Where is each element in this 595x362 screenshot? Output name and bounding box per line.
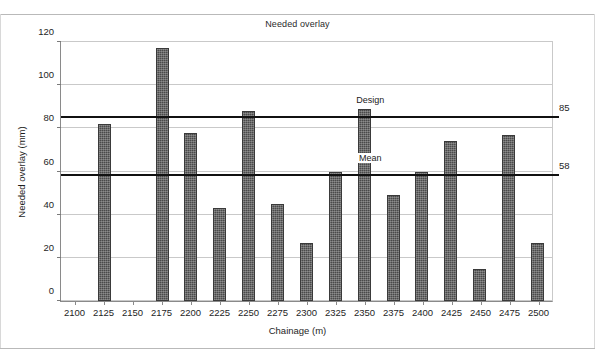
bar[interactable] <box>502 135 515 301</box>
x-axis-tick-label: 2100 <box>64 307 85 318</box>
x-axis-tick <box>452 302 453 305</box>
x-axis-tick <box>394 302 395 305</box>
bar[interactable] <box>271 204 284 301</box>
bar[interactable] <box>473 269 486 301</box>
y-axis-tick-label: 120 <box>38 26 54 37</box>
page-border-bottom <box>0 348 595 349</box>
reference-line-design <box>61 116 559 118</box>
reference-value-design: 85 <box>559 101 570 112</box>
bar-slot <box>321 42 350 301</box>
x-axis-slot: 2350 <box>350 302 379 320</box>
x-axis-tick-label: 2350 <box>354 307 375 318</box>
y-axis-tick-label: 40 <box>43 198 54 209</box>
bar[interactable] <box>387 195 400 301</box>
x-axis-tick-label: 2175 <box>151 307 172 318</box>
x-axis-slot: 2375 <box>379 302 408 320</box>
x-axis-tick <box>249 302 250 305</box>
y-axis-tick-label: 20 <box>43 241 54 252</box>
x-axis-slot: 2125 <box>89 302 118 320</box>
bar-slot <box>263 42 292 301</box>
x-axis-tick-label: 2125 <box>93 307 114 318</box>
x-axis-slot: 2225 <box>205 302 234 320</box>
x-axis-tick-label: 2225 <box>209 307 230 318</box>
x-axis-slot: 2100 <box>60 302 89 320</box>
bar[interactable] <box>444 141 457 301</box>
x-axis-tick-label: 2475 <box>499 307 520 318</box>
bar-slot <box>177 42 206 301</box>
x-axis-tick <box>133 302 134 305</box>
x-axis-slot: 2325 <box>321 302 350 320</box>
x-axis-tick-label: 2375 <box>383 307 404 318</box>
x-axis-slot: 2200 <box>176 302 205 320</box>
bar-slot <box>436 42 465 301</box>
bar-slot <box>494 42 523 301</box>
bar-slot <box>90 42 119 301</box>
x-axis-tick <box>423 302 424 305</box>
x-axis-slot: 2175 <box>147 302 176 320</box>
reference-label-design: Design <box>353 95 387 105</box>
x-axis-slot: 2150 <box>118 302 147 320</box>
bar-slot <box>234 42 263 301</box>
x-axis-title: Chainage (m) <box>0 325 595 336</box>
x-axis-tick-label: 2450 <box>470 307 491 318</box>
bar[interactable] <box>531 243 544 301</box>
bar[interactable] <box>415 172 428 302</box>
x-axis-tick <box>539 302 540 305</box>
reference-value-mean: 58 <box>559 159 570 170</box>
x-axis-slot: 2500 <box>524 302 553 320</box>
bar-slot <box>61 42 90 301</box>
bar-slot <box>465 42 494 301</box>
bar[interactable] <box>358 109 371 301</box>
chart-page: Needed overlay Needed overlay (mm) 02040… <box>0 0 595 362</box>
bar-slot <box>148 42 177 301</box>
reference-label-mean: Mean <box>356 153 385 163</box>
x-axis-tick <box>336 302 337 305</box>
x-axis-tick-label: 2500 <box>528 307 549 318</box>
bar-series <box>61 42 552 301</box>
x-axis-tick-label: 2150 <box>122 307 143 318</box>
x-axis-tick-label: 2300 <box>296 307 317 318</box>
x-axis-tick <box>278 302 279 305</box>
x-axis-slot: 2475 <box>495 302 524 320</box>
bar[interactable] <box>242 111 255 301</box>
x-axis-tick <box>75 302 76 305</box>
bar-slot <box>292 42 321 301</box>
bar-slot <box>408 42 437 301</box>
x-axis-slot: 2425 <box>437 302 466 320</box>
reference-line-mean <box>61 174 559 176</box>
y-axis-title-label: Needed overlay (mm) <box>16 126 27 217</box>
x-axis-tick-label: 2400 <box>412 307 433 318</box>
x-axis-slot: 2300 <box>292 302 321 320</box>
x-axis-tick <box>481 302 482 305</box>
x-axis-slot: 2250 <box>234 302 263 320</box>
bar[interactable] <box>213 208 226 301</box>
bar[interactable] <box>329 172 342 302</box>
bar[interactable] <box>184 133 197 301</box>
y-axis-title: Needed overlay (mm) <box>14 41 28 302</box>
bar-slot <box>379 42 408 301</box>
x-axis-slot: 2400 <box>408 302 437 320</box>
x-axis-tick <box>307 302 308 305</box>
bar-slot <box>523 42 552 301</box>
chart-title: Needed overlay <box>0 19 595 29</box>
bar-slot <box>119 42 148 301</box>
y-axis-tick-label: 80 <box>43 112 54 123</box>
bar[interactable] <box>98 124 111 301</box>
x-axis-tick-label: 2325 <box>325 307 346 318</box>
bar[interactable] <box>300 243 313 301</box>
x-axis-tick <box>104 302 105 305</box>
x-axis: 2100212521502175220022252250227523002325… <box>60 302 553 320</box>
needed-overlay-bar-chart: Needed overlay Needed overlay (mm) 02040… <box>0 14 595 348</box>
plot-area: 020406080100120 Design85Mean58 <box>60 41 553 302</box>
x-axis-tick <box>191 302 192 305</box>
bar-slot <box>205 42 234 301</box>
bar-slot <box>350 42 379 301</box>
x-axis-tick <box>510 302 511 305</box>
x-axis-tick <box>220 302 221 305</box>
y-axis-tick-label: 100 <box>38 69 54 80</box>
x-axis-tick-label: 2250 <box>238 307 259 318</box>
x-axis-tick-label: 2200 <box>180 307 201 318</box>
x-axis-slot: 2450 <box>466 302 495 320</box>
x-axis-tick <box>365 302 366 305</box>
y-axis-tick-label: 60 <box>43 155 54 166</box>
